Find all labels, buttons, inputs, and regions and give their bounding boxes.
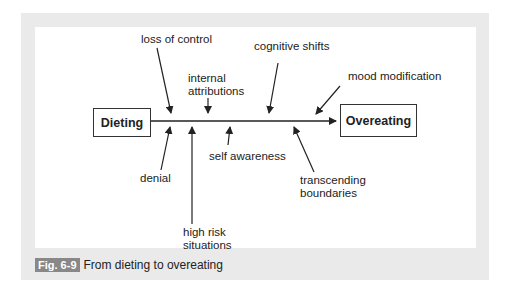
label-loss-of-control: loss of control (141, 33, 212, 46)
label-transcending-boundaries: transcending boundaries (300, 174, 380, 200)
overeating-box: Overeating (340, 104, 417, 137)
label-cognitive-shifts: cognitive shifts (254, 40, 329, 53)
label-self-awareness: self awareness (209, 150, 286, 163)
label-denial: denial (140, 172, 171, 185)
figure-caption: Fig. 6-9 From dieting to overeating (35, 258, 223, 272)
label-internal-attributions: internal attributions (188, 72, 248, 98)
label-high-risk-situations: high risk situations (183, 226, 243, 252)
fig-number-badge: Fig. 6-9 (35, 258, 80, 272)
label-mood-modification: mood modification (348, 70, 441, 83)
caption-text: From dieting to overeating (84, 258, 223, 272)
dieting-box: Dieting (93, 108, 151, 137)
